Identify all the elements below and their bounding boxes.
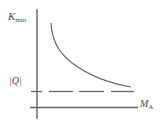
x-axis-label: MA bbox=[140, 99, 153, 111]
diagram-figure: Kmin |Q| MA bbox=[0, 0, 164, 123]
kmin-curve bbox=[51, 23, 131, 87]
q-level-label: |Q| bbox=[9, 76, 22, 86]
x-axis-label-sub: A bbox=[148, 103, 153, 111]
y-axis-label: Kmin bbox=[8, 11, 26, 24]
y-axis-label-sub: min bbox=[15, 16, 26, 24]
